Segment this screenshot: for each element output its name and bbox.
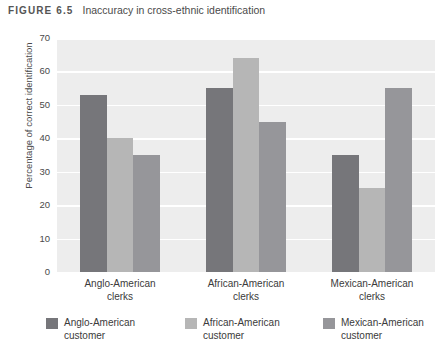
bar [206,88,233,272]
bar [133,155,160,272]
y-axis-tick-label: 20 [20,200,50,210]
bar [80,95,107,272]
legend-label-line: Mexican-American [341,316,447,329]
y-axis-tick-label: 50 [20,100,50,110]
plot-area [57,38,435,272]
legend-swatch-icon [185,318,197,329]
figure-container: FIGURE 6.5Inaccuracy in cross-ethnic ide… [0,0,447,350]
gridline [57,38,435,40]
y-axis-label: Percentage of correct identification [23,26,34,206]
figure-number: FIGURE 6.5 [8,5,73,16]
bar [107,138,134,272]
legend-item[interactable]: Mexican-Americancustomer [323,316,447,342]
legend-swatch-icon [323,318,335,329]
bar [385,88,412,272]
legend-item[interactable]: Anglo-Americancustomer [46,316,186,342]
legend-label-line: Anglo-American [64,316,186,329]
y-axis-tick-label: 0 [20,267,50,277]
legend-label-line: customer [203,329,325,342]
figure-title: Inaccuracy in cross-ethnic identificatio… [82,4,265,16]
x-axis-group-label-line: Mexican-American [297,277,447,290]
y-axis-tick-label: 10 [20,234,50,244]
bar [233,58,260,272]
x-axis-group-label-line: clerks [297,290,447,303]
legend-label-line: customer [341,329,447,342]
bar [359,188,386,272]
y-axis-tick-label: 30 [20,167,50,177]
figure-caption: FIGURE 6.5Inaccuracy in cross-ethnic ide… [8,4,438,17]
legend-label-line: customer [64,329,186,342]
legend-swatch-icon [46,318,58,329]
y-axis-tick-label: 60 [20,66,50,76]
legend-label-line: African-American [203,316,325,329]
bar [332,155,359,272]
legend-item[interactable]: African-Americancustomer [185,316,325,342]
y-axis-tick-label: 40 [20,133,50,143]
y-axis-tick-label: 70 [20,33,50,43]
bar [259,122,286,272]
x-axis-group-label: Mexican-Americanclerks [297,277,447,303]
